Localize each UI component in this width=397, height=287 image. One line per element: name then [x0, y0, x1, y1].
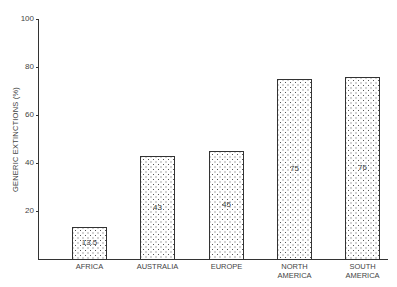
y-tick: [36, 19, 39, 20]
bar-value-label: 13.5: [73, 238, 106, 247]
x-category-label: SOUTHAMERICA: [333, 262, 393, 280]
x-category-label: NORTHAMERICA: [265, 262, 325, 280]
bar-south-america: 76: [345, 77, 380, 260]
y-tick-label: 100: [10, 14, 34, 23]
y-tick-label: 80: [10, 62, 34, 71]
bar-value-label: 43: [141, 203, 174, 212]
y-tick: [36, 115, 39, 116]
x-category-line: SOUTH: [333, 262, 393, 271]
y-tick-label: 20: [10, 206, 34, 215]
x-category-line: NORTH: [265, 262, 325, 271]
x-category-line: AMERICA: [333, 271, 393, 280]
y-tick: [36, 211, 39, 212]
y-tick: [36, 67, 39, 68]
y-axis: [38, 19, 39, 260]
bar-value-label: 75: [278, 164, 311, 173]
x-category-label: AFRICA: [60, 262, 120, 271]
bar-north-america: 75: [277, 79, 312, 260]
y-tick-label: 60: [10, 110, 34, 119]
bar-europe: 45: [209, 151, 244, 260]
bar-value-label: 45: [210, 200, 243, 209]
x-category-line: AMERICA: [265, 271, 325, 280]
bar-africa: 13.5: [72, 227, 107, 260]
bar-chart: GENERIC EXTINCTIONS (%) 20406080100 13.5…: [0, 0, 397, 287]
y-tick-label: 40: [10, 158, 34, 167]
x-category-line: AUSTRALIA: [128, 262, 188, 271]
x-category-label: EUROPE: [197, 262, 257, 271]
y-axis-label: GENERIC EXTINCTIONS (%): [11, 85, 20, 195]
x-category-label: AUSTRALIA: [128, 262, 188, 271]
bar-australia: 43: [140, 156, 175, 260]
bar-value-label: 76: [346, 163, 379, 172]
x-category-line: AFRICA: [60, 262, 120, 271]
x-category-line: EUROPE: [197, 262, 257, 271]
y-tick: [36, 163, 39, 164]
